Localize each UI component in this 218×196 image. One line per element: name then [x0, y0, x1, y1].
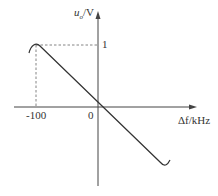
x-axis-label: Δf/kHz [178, 114, 210, 126]
x-axis-arrow-icon [189, 105, 197, 110]
y-axis-label-unit: /V [83, 6, 94, 18]
y-axis-arrow-icon [96, 11, 101, 19]
y-axis-label: uo/V [74, 6, 94, 21]
y-tick-1: 1 [102, 38, 108, 50]
chart-canvas [0, 0, 218, 196]
x-tick-neg100: -100 [26, 109, 46, 121]
series-curve [29, 44, 170, 165]
origin-label: 0 [88, 109, 94, 121]
